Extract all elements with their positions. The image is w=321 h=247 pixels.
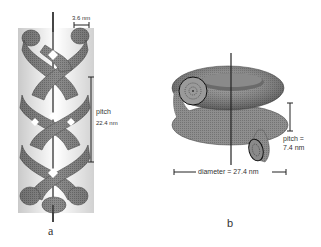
panel-b: pitch = 7.4 nm diameter = 27.4 nm b xyxy=(160,0,321,247)
helical-coil-graphic xyxy=(160,0,321,247)
panel-letter-b: b xyxy=(227,217,233,229)
pitch-title-b: pitch = xyxy=(283,135,304,143)
pitch-title-a: pitch xyxy=(96,108,111,116)
diameter-label: diameter = 27.4 nm xyxy=(198,168,259,176)
strand-width-scale-bar xyxy=(74,22,89,28)
triple-helix-graphic xyxy=(0,0,160,247)
panel-letter-a: a xyxy=(48,224,53,239)
panel-a: 3.6 nm pitch 22.4 nm a xyxy=(0,0,160,247)
strand-width-label: 3.6 nm xyxy=(72,14,90,22)
pitch-value-b: 7.4 nm xyxy=(283,144,304,152)
pitch-value-a: 22.4 nm xyxy=(96,119,118,127)
